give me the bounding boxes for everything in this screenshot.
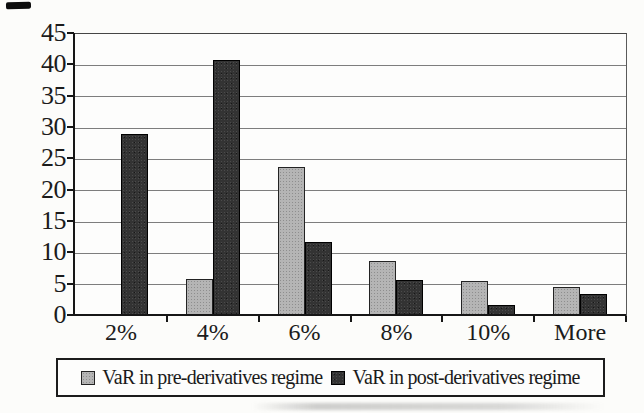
y-tick-label-30: 30	[4, 114, 66, 140]
y-tick-mark-10	[67, 251, 74, 253]
x-category-label-2pct: 2%	[75, 319, 167, 345]
x-category-label-6pct: 6%	[259, 319, 351, 345]
x-tick-mark-6	[625, 316, 627, 322]
bar-post-8pct	[396, 280, 423, 316]
y-tick-label-35: 35	[4, 83, 66, 109]
x-tick-mark-1	[166, 316, 168, 322]
y-tick-label-0: 0	[4, 302, 66, 328]
y-tick-mark-45	[67, 32, 74, 34]
y-tick-mark-5	[67, 283, 74, 285]
bar-post-4pct	[213, 60, 240, 316]
legend: VaR in pre-derivatives regime VaR in pos…	[56, 358, 605, 397]
bar-pre-6pct	[278, 167, 305, 316]
gridline-35	[75, 96, 626, 97]
y-tick-label-15: 15	[4, 208, 66, 234]
chart-figure: 051015202530354045 2%4%6%8%10%More VaR i…	[0, 0, 644, 413]
legend-label-post: VaR in post-derivatives regime	[352, 366, 579, 389]
y-tick-label-40: 40	[4, 51, 66, 77]
plot-area	[75, 33, 627, 316]
x-tick-mark-4	[441, 316, 443, 322]
gridline-20	[75, 190, 626, 191]
scan-artifact-mark	[6, 2, 31, 10]
legend-swatch-pre-icon	[81, 371, 95, 385]
y-tick-mark-25	[67, 157, 74, 159]
x-category-label-10pct: 10%	[442, 319, 534, 345]
y-tick-label-20: 20	[4, 177, 66, 203]
x-tick-mark-2	[258, 316, 260, 322]
bar-post-2pct	[121, 134, 148, 316]
x-category-label-4pct: 4%	[167, 319, 259, 345]
y-tick-mark-35	[67, 95, 74, 97]
legend-entry-pre-derivatives: VaR in pre-derivatives regime	[81, 366, 322, 389]
gridline-15	[75, 222, 626, 223]
scan-artifact-smudge	[252, 403, 604, 410]
gridline-5	[75, 284, 626, 285]
x-category-label-more: More	[534, 319, 626, 345]
gridline-25	[75, 159, 626, 160]
bar-post-more	[580, 294, 607, 316]
y-tick-mark-0	[67, 314, 74, 316]
bar-pre-4pct	[186, 279, 213, 316]
y-tick-label-10: 10	[4, 239, 66, 265]
x-tick-mark-3	[350, 316, 352, 322]
legend-swatch-post-icon	[331, 371, 345, 385]
y-tick-label-45: 45	[4, 20, 66, 46]
y-tick-label-5: 5	[4, 271, 66, 297]
gridline-30	[75, 128, 626, 129]
y-tick-mark-30	[67, 126, 74, 128]
y-tick-mark-15	[67, 220, 74, 222]
gridline-10	[75, 253, 626, 254]
x-category-label-8pct: 8%	[351, 319, 443, 345]
bar-post-6pct	[305, 242, 332, 316]
bar-pre-8pct	[369, 261, 396, 316]
gridline-40	[75, 65, 626, 66]
legend-entry-post-derivatives: VaR in post-derivatives regime	[331, 366, 579, 389]
x-tick-mark-5	[533, 316, 535, 322]
y-tick-label-25: 25	[4, 145, 66, 171]
y-tick-mark-20	[67, 189, 74, 191]
legend-label-pre: VaR in pre-derivatives regime	[102, 366, 322, 389]
y-axis-line	[73, 33, 75, 316]
y-tick-mark-40	[67, 63, 74, 65]
bar-pre-more	[553, 287, 580, 316]
bar-pre-10pct	[461, 281, 488, 316]
